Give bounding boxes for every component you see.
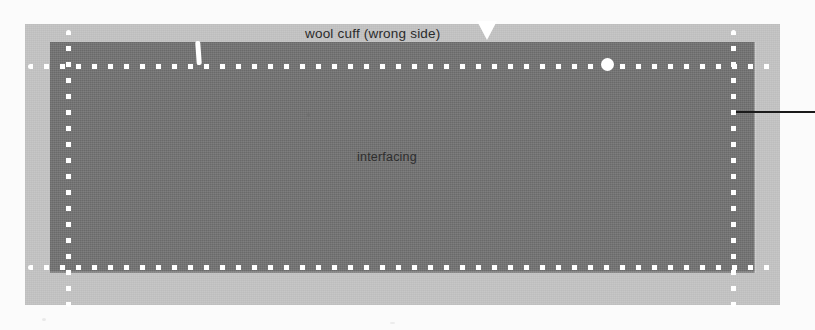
sewing-diagram-figure: wool cuff (wrong side) interfacing bbox=[0, 0, 815, 330]
scan-speck bbox=[42, 318, 46, 321]
interfacing-label: interfacing bbox=[357, 150, 417, 164]
leader-line bbox=[736, 111, 815, 113]
scan-speck bbox=[390, 322, 395, 324]
wool-cuff-label: wool cuff (wrong side) bbox=[305, 26, 440, 41]
scan-speck bbox=[307, 113, 310, 117]
notch-v-icon bbox=[477, 21, 497, 40]
stitch-marker-dot bbox=[601, 58, 614, 71]
